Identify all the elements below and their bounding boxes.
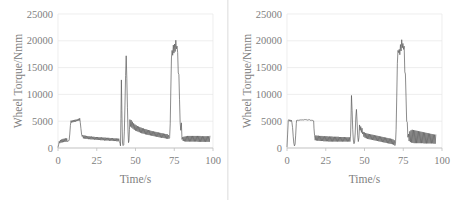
gridlines-group — [287, 14, 442, 148]
y-tick-label-5000: 5000 — [261, 116, 282, 127]
y-axis-title: Wheel Torque/Nmm — [241, 34, 254, 129]
figure-container: 05000100001500020000250000255075100Time/… — [0, 0, 456, 200]
y-tick-label-20000: 20000 — [27, 35, 53, 46]
x-tick-label-75: 75 — [398, 155, 409, 166]
x-tick-labels-group: 0255075100 — [284, 148, 450, 166]
wheel-torque-chart-left: 05000100001500020000250000255075100Time/… — [0, 0, 228, 200]
y-tick-label-10000: 10000 — [27, 89, 53, 100]
y-tick-label-10000: 10000 — [256, 89, 282, 100]
x-tick-label-0: 0 — [55, 155, 60, 166]
x-tick-label-100: 100 — [205, 155, 221, 166]
y-tick-label-20000: 20000 — [256, 35, 282, 46]
chart-panel-left: 05000100001500020000250000255075100Time/… — [0, 0, 228, 200]
y-tick-label-25000: 25000 — [256, 9, 282, 20]
y-tick-labels-group: 0500010000150002000025000 — [27, 9, 53, 154]
x-tick-label-25: 25 — [321, 155, 332, 166]
x-tick-label-75: 75 — [169, 155, 180, 166]
y-tick-label-5000: 5000 — [32, 116, 53, 127]
y-tick-label-15000: 15000 — [27, 62, 53, 73]
y-tick-label-0: 0 — [277, 143, 282, 154]
x-tick-label-25: 25 — [92, 155, 103, 166]
x-tick-label-0: 0 — [284, 155, 289, 166]
wheel-torque-chart-right: 05000100001500020000250000255075100Time/… — [229, 0, 456, 200]
y-tick-label-15000: 15000 — [256, 62, 282, 73]
x-tick-label-50: 50 — [359, 155, 370, 166]
x-tick-label-100: 100 — [434, 155, 450, 166]
y-tick-labels-group: 0500010000150002000025000 — [256, 9, 282, 154]
x-axis-title: Time/s — [120, 173, 152, 185]
x-tick-labels-group: 0255075100 — [55, 148, 221, 166]
y-axis-title: Wheel Torque/Nmm — [12, 34, 25, 129]
x-axis-title: Time/s — [349, 173, 381, 185]
chart-panel-right: 05000100001500020000250000255075100Time/… — [228, 0, 456, 200]
series-line-0 — [287, 40, 436, 147]
x-tick-label-50: 50 — [130, 155, 141, 166]
y-tick-label-0: 0 — [48, 143, 53, 154]
series-line-0 — [58, 40, 210, 147]
y-tick-label-25000: 25000 — [27, 9, 53, 20]
